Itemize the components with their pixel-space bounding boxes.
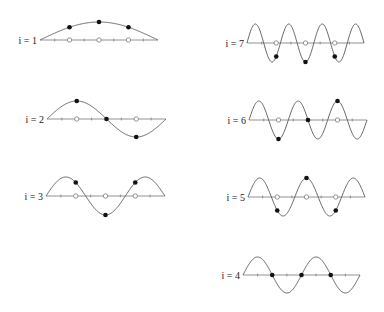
- sample-point-dot: [73, 180, 78, 185]
- sine-curve: [40, 22, 158, 40]
- grid-point-open-circle: [74, 194, 78, 198]
- grid-point-open-circle: [334, 195, 338, 199]
- grid-point-open-circle: [304, 195, 308, 199]
- sample-point-dot: [275, 208, 280, 213]
- grid-point-open-circle: [133, 194, 137, 198]
- grid-point-open-circle: [335, 118, 339, 122]
- grid-point-open-circle: [134, 117, 138, 121]
- grid-point-open-circle: [276, 118, 280, 122]
- grid-point-open-circle: [333, 41, 337, 45]
- mode-label: i = 5: [227, 192, 245, 203]
- sample-point-dot: [332, 54, 337, 59]
- sample-point-dot: [328, 273, 333, 278]
- sample-point-dot: [304, 176, 309, 181]
- mode-panel-i-2: i = 2: [26, 99, 166, 140]
- mode-label: i = 6: [228, 115, 246, 126]
- sample-point-dot: [97, 20, 102, 25]
- grid-point-open-circle: [126, 38, 130, 42]
- mode-label: i = 7: [226, 38, 244, 49]
- grid-point-open-circle: [103, 194, 107, 198]
- grid-point-open-circle: [303, 41, 307, 45]
- mode-panel-i-7: i = 7: [226, 24, 364, 64]
- sample-point-dot: [274, 54, 279, 59]
- mode-label: i = 2: [26, 114, 44, 125]
- mode-panel-i-1: i = 1: [19, 20, 158, 46]
- sample-point-dot: [306, 118, 311, 123]
- sample-point-dot: [276, 137, 281, 142]
- sample-point-dot: [103, 213, 108, 218]
- sample-point-dot: [104, 117, 109, 122]
- sample-point-dot: [333, 208, 338, 213]
- sample-point-dot: [67, 25, 72, 30]
- sample-point-dot: [303, 60, 308, 65]
- sample-point-dot: [299, 273, 304, 278]
- grid-point-open-circle: [97, 38, 101, 42]
- grid-point-open-circle: [274, 41, 278, 45]
- mode-panel-i-4: i = 4: [222, 257, 360, 293]
- sample-point-dot: [133, 180, 138, 185]
- sample-point-dot: [270, 273, 275, 278]
- sample-point-dot: [335, 99, 340, 104]
- mode-panel-i-6: i = 6: [228, 99, 367, 142]
- grid-point-open-circle: [75, 117, 79, 121]
- grid-point-open-circle: [67, 38, 71, 42]
- mode-panel-i-3: i = 3: [25, 177, 165, 217]
- sine-modes-figure: i = 1i = 2i = 3i = 7i = 6i = 5i = 4: [0, 0, 384, 312]
- grid-point-open-circle: [275, 195, 279, 199]
- mode-panel-i-5: i = 5: [227, 176, 365, 216]
- sample-point-dot: [126, 25, 131, 30]
- sample-point-dot: [134, 135, 139, 140]
- mode-label: i = 3: [25, 191, 43, 202]
- sample-point-dot: [74, 99, 79, 104]
- mode-label: i = 4: [222, 270, 240, 281]
- mode-label: i = 1: [19, 35, 37, 46]
